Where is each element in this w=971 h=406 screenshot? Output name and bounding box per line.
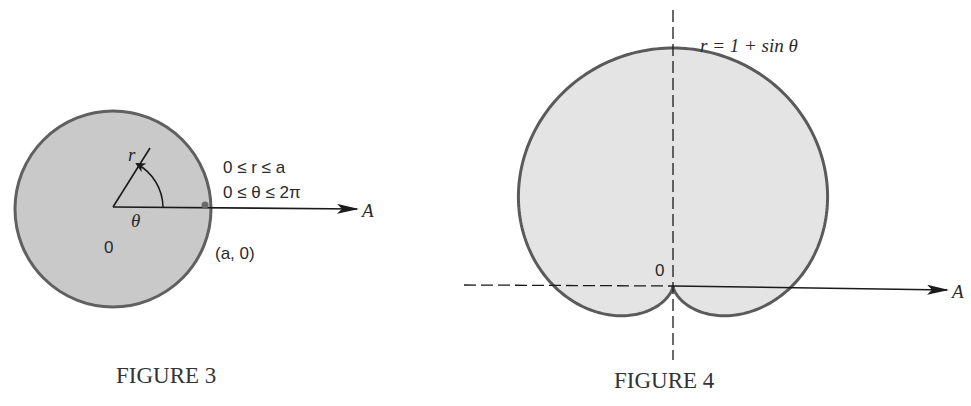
constraint-r: 0 ≤ r ≤ a (223, 158, 286, 177)
axis-label: A (950, 281, 964, 302)
point-a0 (202, 202, 209, 209)
figure-4: r = 1 + sin θ 0 A FIGURE 4 (464, 10, 964, 393)
equation-label: r = 1 + sin θ (700, 35, 798, 56)
figures-canvas: r θ 0 (a, 0) A 0 ≤ r ≤ a 0 ≤ θ ≤ 2π FIGU… (0, 0, 971, 406)
axis-label: A (360, 200, 374, 221)
figure-3: r θ 0 (a, 0) A 0 ≤ r ≤ a 0 ≤ θ ≤ 2π FIGU… (15, 111, 374, 388)
pole-label: 0 (104, 238, 113, 257)
figure-3-caption: FIGURE 3 (116, 363, 216, 388)
disk-region (15, 111, 211, 307)
point-label: (a, 0) (215, 244, 255, 263)
radius-label: r (128, 144, 136, 165)
pole-label: 0 (655, 261, 664, 280)
angle-label: θ (131, 210, 140, 231)
figure-4-caption: FIGURE 4 (614, 368, 715, 393)
constraint-theta: 0 ≤ θ ≤ 2π (223, 183, 301, 202)
